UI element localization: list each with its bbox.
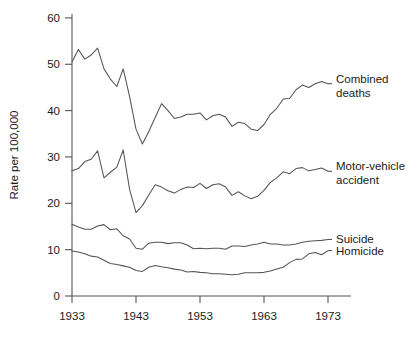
y-tick-label: 20 bbox=[47, 197, 60, 209]
x-tick-label: 1963 bbox=[251, 310, 277, 322]
y-axis-group: 0102030405060 bbox=[47, 12, 72, 302]
series-label-homicide: Homicide bbox=[336, 245, 384, 257]
series-label-combined-deaths-line2: deaths bbox=[336, 87, 371, 99]
chart-container: 0102030405060 19331943195319631973 Rate … bbox=[0, 0, 417, 337]
series-label-motor-vehicle-accident-line2: accident bbox=[336, 174, 380, 186]
x-axis-ticks: 19331943195319631973 bbox=[59, 296, 341, 322]
x-tick-label: 1953 bbox=[187, 310, 213, 322]
y-tick-label: 40 bbox=[47, 105, 60, 117]
series-line-homicide bbox=[72, 251, 328, 275]
series-label-combined-deaths: Combined bbox=[336, 73, 388, 85]
series-line-combined-deaths bbox=[72, 48, 328, 144]
series-line-motor-vehicle-accident bbox=[72, 150, 328, 213]
y-tick-label: 0 bbox=[54, 290, 60, 302]
y-tick-label: 60 bbox=[47, 12, 60, 24]
line-chart-svg: 0102030405060 19331943195319631973 Rate … bbox=[0, 0, 417, 337]
series-line-suicide bbox=[72, 224, 328, 249]
y-axis-title: Rate per 100,000 bbox=[8, 111, 20, 200]
y-axis-ticks: 0102030405060 bbox=[47, 12, 72, 302]
y-tick-label: 10 bbox=[47, 244, 60, 256]
y-tick-label: 30 bbox=[47, 151, 60, 163]
series-label-motor-vehicle-accident: Motor-vehicle bbox=[336, 160, 405, 172]
x-tick-label: 1933 bbox=[59, 310, 85, 322]
y-tick-label: 50 bbox=[47, 58, 60, 70]
series-lines-group bbox=[72, 48, 332, 275]
x-axis-group: 19331943195319631973 bbox=[59, 296, 351, 322]
x-tick-label: 1973 bbox=[315, 310, 341, 322]
x-tick-label: 1943 bbox=[123, 310, 149, 322]
series-labels-group: CombineddeathsMotor-vehicleaccidentSuici… bbox=[336, 73, 405, 257]
